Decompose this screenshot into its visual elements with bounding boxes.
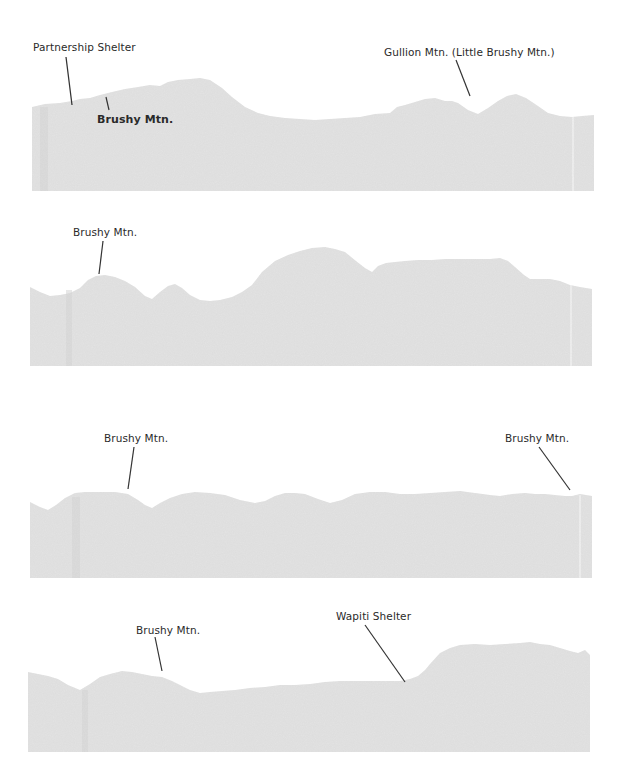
leader-line-brushy-p3-left [128,447,134,489]
label-wapiti-shelter: Wapiti Shelter [336,610,411,622]
label-brushy-mtn-p3-left: Brushy Mtn. [104,432,168,444]
leader-line-brushy-p1 [106,97,109,110]
leader-line-brushy-p3-right [539,447,570,490]
leader-line-partnership [66,57,72,105]
label-gullion-mtn: Gullion Mtn. (Little Brushy Mtn.) [384,46,555,58]
leader-line-wapiti [365,625,405,682]
label-partnership-shelter: Partnership Shelter [33,41,136,53]
leader-line-brushy-p4 [155,637,162,671]
leader-lines [0,0,623,779]
label-brushy-mtn-p3-right: Brushy Mtn. [505,432,569,444]
label-brushy-mtn-p2: Brushy Mtn. [73,226,137,238]
label-brushy-mtn-p1: Brushy Mtn. [97,113,173,126]
leader-line-gullion [456,60,470,96]
label-brushy-mtn-p4: Brushy Mtn. [136,624,200,636]
leader-line-brushy-p2 [99,241,103,274]
